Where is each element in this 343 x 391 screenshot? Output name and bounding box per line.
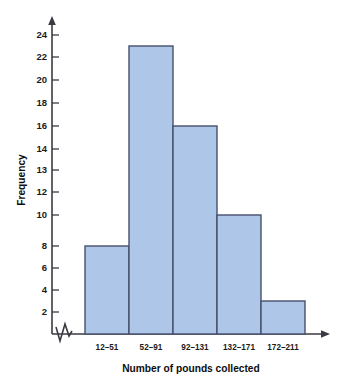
y-tick-label-8: 8 [42, 240, 47, 251]
x-tick-label-1: 52–91 [140, 343, 163, 352]
y-tick-label-24: 24 [36, 29, 47, 40]
y-tick-label-2: 2 [42, 306, 47, 317]
x-tick-label-3: 132–171 [223, 343, 255, 352]
histogram-figure: 24 22 20 18 16 14 13 12 10 8 6 4 [0, 0, 343, 391]
x-tick-label-4: 172–211 [267, 343, 299, 352]
y-tick-label-14: 14 [36, 143, 47, 154]
y-tick-label-6: 6 [42, 262, 47, 273]
histogram-canvas: 24 22 20 18 16 14 13 12 10 8 6 4 [0, 0, 343, 391]
y-tick-label-12: 12 [36, 186, 47, 197]
y-tick-label-10: 10 [36, 209, 47, 220]
y-axis-title: Frequency [16, 154, 27, 206]
y-tick-label-16: 16 [36, 120, 47, 131]
bar-132-171[interactable] [217, 215, 261, 334]
y-tick-label-22: 22 [36, 51, 47, 62]
bar-52-91[interactable] [129, 46, 173, 334]
bar-172-211[interactable] [261, 301, 305, 334]
x-axis-title: Number of pounds collected [122, 363, 260, 374]
y-tick-label-18: 18 [36, 97, 47, 108]
y-tick-label-13: 13 [36, 164, 47, 175]
x-tick-label-0: 12–51 [96, 343, 119, 352]
y-tick-label-4: 4 [42, 284, 48, 295]
bar-12-51[interactable] [85, 246, 129, 334]
bar-92-131[interactable] [173, 126, 217, 334]
x-tick-label-2: 92–131 [181, 343, 209, 352]
y-tick-label-20: 20 [36, 74, 47, 85]
